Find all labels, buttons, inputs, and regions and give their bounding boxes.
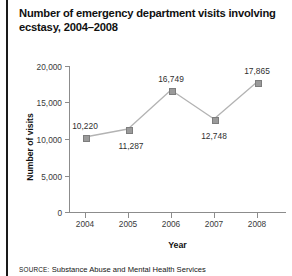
y-axis-title: Number of visits xyxy=(25,92,35,202)
data-label-2007: 12,748 xyxy=(186,131,242,141)
data-label-2004: 10,220 xyxy=(57,121,113,131)
plot-area: 20,000 15,000 10,000 5,000 0 2004 2005 2… xyxy=(0,0,292,276)
x-axis-title: Year xyxy=(69,240,286,250)
data-point-2004 xyxy=(83,135,90,142)
data-point-2005 xyxy=(126,127,133,134)
data-label-2008: 17,865 xyxy=(229,66,285,76)
data-point-2008 xyxy=(255,80,262,87)
source-note: SOURCE: Substance Abuse and Mental Healt… xyxy=(19,265,287,275)
source-prefix: SOURCE: xyxy=(19,266,50,273)
data-point-2006 xyxy=(169,88,176,95)
chart-page: Number of emergency department visits in… xyxy=(0,0,292,276)
data-label-2005: 11,287 xyxy=(103,141,159,151)
data-point-2007 xyxy=(212,117,219,124)
series-line xyxy=(0,0,292,276)
source-text: Substance Abuse and Mental Health Servic… xyxy=(52,265,206,274)
data-label-2006: 16,749 xyxy=(143,74,199,84)
